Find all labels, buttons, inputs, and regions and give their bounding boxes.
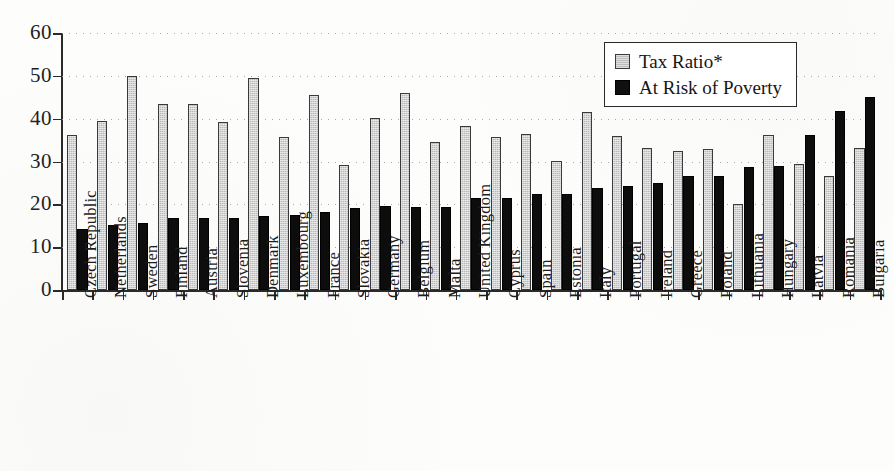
x-axis-tick-label: Hungary bbox=[780, 239, 797, 298]
x-axis-tick-label: Luxembourg bbox=[295, 211, 312, 298]
legend-swatch-at-risk-of-poverty bbox=[615, 80, 630, 95]
legend-item-tax-ratio: Tax Ratio* bbox=[615, 48, 782, 74]
x-axis-tick-label: Ireland bbox=[659, 250, 676, 298]
y-axis-tick-mark bbox=[53, 247, 62, 249]
y-axis-tick-label: 50 bbox=[18, 65, 52, 86]
x-axis-tick-label: Cyprus bbox=[507, 249, 524, 298]
x-axis-tick-label: Italy bbox=[598, 267, 615, 298]
x-axis-tick-label: Poland bbox=[719, 251, 736, 298]
legend-swatch-tax-ratio bbox=[615, 54, 630, 69]
x-axis-tick-label: Sweden bbox=[144, 245, 161, 298]
x-axis-tick-label: Latvia bbox=[810, 255, 827, 298]
bar bbox=[67, 135, 77, 290]
x-axis-tick-label: Greece bbox=[689, 250, 706, 298]
x-axis-tick-label: Lithuania bbox=[750, 233, 767, 298]
x-axis-tick-label: Portugal bbox=[628, 240, 645, 298]
x-axis-tick-label: Germany bbox=[386, 235, 403, 298]
legend-label-at-risk-of-poverty: At Risk of Poverty bbox=[639, 78, 782, 97]
y-axis-tick-label: 0 bbox=[18, 279, 52, 300]
y-axis-tick-mark bbox=[53, 204, 62, 206]
x-axis-tick-label: United Kingdom bbox=[477, 184, 494, 298]
y-axis-tick-mark bbox=[53, 119, 62, 121]
y-axis-tick-mark bbox=[53, 76, 62, 78]
x-axis-tick-label: Slovakia bbox=[356, 239, 373, 298]
x-axis-tick-label: Belgium bbox=[416, 240, 433, 298]
x-axis-tick-label: Finland bbox=[174, 246, 191, 298]
y-axis-tick-label: 30 bbox=[18, 151, 52, 172]
x-axis-tick-label: Austria bbox=[204, 248, 221, 298]
legend-item-at-risk-of-poverty: At Risk of Poverty bbox=[615, 74, 782, 100]
x-axis-tick-label: Slovenia bbox=[235, 239, 252, 298]
x-axis-tick-label: Malta bbox=[447, 259, 464, 299]
y-axis-tick-label: 10 bbox=[18, 236, 52, 257]
x-axis-labels: Czech RepublicNetherlandsSwedenFinlandAu… bbox=[62, 292, 880, 467]
x-axis-tick-label: Spain bbox=[538, 259, 555, 298]
y-axis-labels: 0102030405060 bbox=[12, 0, 52, 471]
x-axis-tick-label: Czech Republic bbox=[83, 190, 100, 298]
y-axis-tick-mark bbox=[53, 290, 62, 292]
legend-label-tax-ratio: Tax Ratio* bbox=[639, 52, 723, 71]
x-axis-tick-label: France bbox=[326, 252, 343, 298]
y-axis-tick-mark bbox=[53, 33, 62, 35]
y-axis-tick-label: 60 bbox=[18, 22, 52, 43]
x-axis-tick-label: Estonia bbox=[568, 247, 585, 298]
x-axis-tick-label: Romania bbox=[841, 237, 858, 298]
y-axis-tick-label: 40 bbox=[18, 108, 52, 129]
y-axis-tick-mark bbox=[53, 162, 62, 164]
y-axis-tick-label: 20 bbox=[18, 193, 52, 214]
x-axis-tick-label: Bulgaria bbox=[871, 240, 888, 298]
x-axis-tick-label: Denmark bbox=[265, 235, 282, 298]
chart-legend: Tax Ratio* At Risk of Poverty bbox=[604, 42, 797, 107]
chart-figure: 0102030405060 Czech RepublicNetherlandsS… bbox=[0, 0, 894, 471]
x-axis-tick-label: Netherlands bbox=[113, 216, 130, 298]
